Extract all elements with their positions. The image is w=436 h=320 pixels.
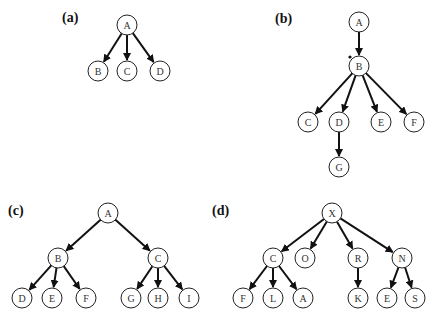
node-A: A — [349, 12, 369, 32]
panel-label: (b) — [275, 11, 292, 27]
edge-N-E — [391, 267, 399, 287]
edge-A-C — [115, 220, 149, 251]
edge-C-G — [137, 266, 152, 289]
node-label: F — [411, 117, 417, 128]
node-B: B — [349, 56, 369, 76]
node-A: A — [98, 203, 118, 223]
node-label: E — [49, 293, 55, 304]
edge-B-F — [64, 266, 80, 289]
node-label: R — [355, 253, 362, 264]
node-F: F — [404, 112, 424, 132]
node-label: O — [301, 253, 308, 264]
node-label: C — [124, 66, 131, 77]
node-G: G — [329, 157, 349, 177]
edge-X-N — [340, 218, 392, 252]
edge-A-B — [104, 33, 122, 61]
edge-B-F — [366, 73, 406, 114]
node-label: X — [328, 208, 336, 219]
node-label: C — [270, 253, 277, 264]
node-X: X — [322, 203, 342, 223]
edge-N-S — [405, 268, 412, 288]
node-E: E — [42, 288, 62, 308]
node-label: D — [156, 66, 163, 77]
edge-A-D — [133, 33, 154, 62]
node-label: B — [95, 66, 102, 77]
node-O: O — [295, 248, 315, 268]
node-N: N — [392, 248, 412, 268]
panel-d: (d)XCORNFLAKES — [212, 203, 425, 308]
node-label: G — [335, 162, 342, 173]
node-B: B — [48, 248, 68, 268]
node-F: F — [233, 288, 253, 308]
node-label: A — [104, 208, 112, 219]
panel-label: (c) — [8, 203, 24, 219]
node-label: A — [123, 20, 131, 31]
node-R: R — [348, 248, 368, 268]
edge-B-D — [29, 265, 51, 289]
panel-label: (a) — [62, 10, 79, 26]
node-G: G — [121, 288, 141, 308]
node-C: C — [117, 61, 137, 81]
node-label: C — [155, 253, 162, 264]
node-C: C — [298, 112, 318, 132]
node-E: E — [377, 288, 397, 308]
node-label: H — [154, 293, 161, 304]
panel-label: (d) — [212, 203, 229, 219]
node-label: F — [240, 293, 246, 304]
node-label: A — [299, 293, 307, 304]
node-label: N — [398, 253, 405, 264]
node-A: A — [293, 288, 313, 308]
node-B: B — [88, 61, 108, 81]
node-label: E — [378, 117, 384, 128]
panel-c: (c)ABCDEFGHI — [8, 203, 199, 308]
node-I: I — [179, 288, 199, 308]
panel-b: (b)ABCDEFG — [275, 11, 424, 177]
node-D: D — [329, 112, 349, 132]
node-label: A — [355, 17, 363, 28]
node-label: F — [83, 293, 89, 304]
edge-X-O — [311, 222, 327, 249]
dot-mark — [348, 55, 351, 58]
node-label: K — [354, 293, 362, 304]
node-C: C — [148, 248, 168, 268]
node-S: S — [405, 288, 425, 308]
node-A: A — [117, 15, 137, 35]
node-label: G — [127, 293, 134, 304]
node-K: K — [348, 288, 368, 308]
edge-C-I — [164, 266, 182, 289]
node-E: E — [371, 112, 391, 132]
node-label: L — [270, 293, 276, 304]
edge-B-E — [54, 268, 57, 287]
node-L: L — [263, 288, 283, 308]
panel-a: (a)ABCD — [62, 10, 170, 81]
node-label: S — [412, 293, 418, 304]
node-label: D — [18, 293, 25, 304]
node-D: D — [12, 288, 32, 308]
node-label: D — [335, 117, 342, 128]
node-label: B — [356, 61, 363, 72]
node-D: D — [150, 61, 170, 81]
node-label: B — [55, 253, 62, 264]
node-label: C — [305, 117, 312, 128]
edge-A-B — [66, 220, 100, 251]
edge-B-C — [315, 73, 352, 113]
edge-C-A — [279, 266, 296, 289]
node-H: H — [148, 288, 168, 308]
tree-diagrams: (a)ABCD (b)ABCDEFG (c)ABCDEFGHI (d)XCORN… — [0, 0, 436, 320]
node-label: E — [384, 293, 390, 304]
node-F: F — [76, 288, 96, 308]
node-C: C — [263, 248, 283, 268]
node-label: I — [187, 293, 190, 304]
edge-C-F — [250, 266, 267, 289]
